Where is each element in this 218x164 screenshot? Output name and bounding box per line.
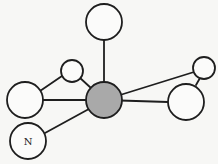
bond-left-upper-left [40,76,62,91]
atom-upper-left-small [61,60,83,82]
nitrogen-label: N [24,136,33,147]
molecule-diagram: N [0,0,218,164]
atom-upper-right-small [193,57,215,79]
atom-top [86,4,122,40]
bond-right-upper-right [196,78,200,85]
atoms: N [7,4,215,159]
atom-center [86,82,122,118]
atom-right [168,84,204,120]
atom-left [7,82,43,118]
